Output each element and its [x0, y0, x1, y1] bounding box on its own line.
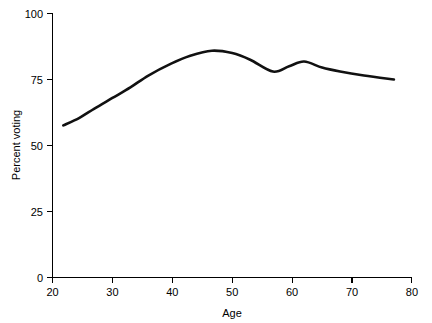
x-tick-marks [53, 278, 412, 284]
y-tick-labels: 100 75 50 25 0 [25, 8, 43, 284]
chart-figure: 100 75 50 25 0 20 30 40 50 60 70 80 Ag [0, 0, 432, 323]
y-axis-title: Percent voting [10, 110, 22, 180]
y-tick-label-50: 50 [31, 140, 43, 152]
data-series-line [63, 51, 394, 126]
x-tick-label-30: 30 [106, 286, 118, 298]
x-tick-label-80: 80 [406, 286, 418, 298]
x-tick-labels: 20 30 40 50 60 70 80 [46, 286, 418, 298]
y-tick-marks [47, 14, 53, 278]
y-tick-label-0: 0 [37, 272, 43, 284]
line-chart-plot: 100 75 50 25 0 20 30 40 50 60 70 80 Ag [0, 0, 432, 323]
x-tick-label-20: 20 [46, 286, 58, 298]
x-axis-title: Age [222, 307, 242, 319]
x-tick-label-60: 60 [286, 286, 298, 298]
y-tick-label-25: 25 [31, 206, 43, 218]
x-tick-label-50: 50 [226, 286, 238, 298]
y-tick-label-100: 100 [25, 8, 43, 20]
y-tick-label-75: 75 [31, 74, 43, 86]
x-tick-label-70: 70 [346, 286, 358, 298]
x-tick-label-40: 40 [166, 286, 178, 298]
